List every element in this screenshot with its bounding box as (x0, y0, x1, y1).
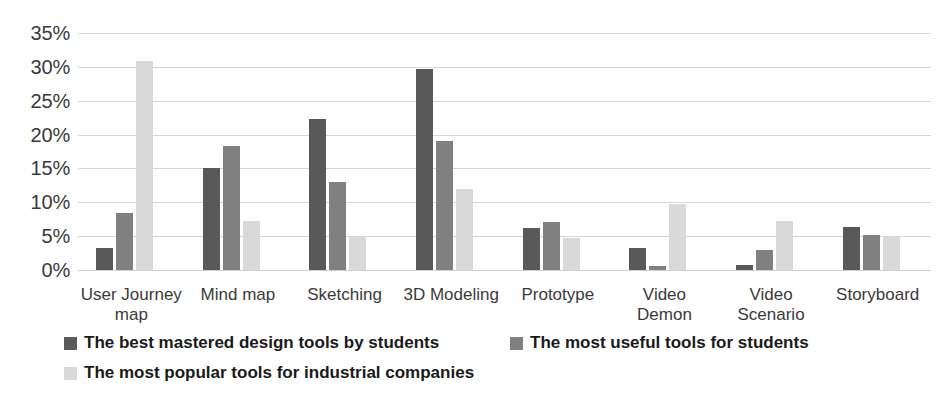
bar[interactable] (863, 235, 880, 270)
bar[interactable] (563, 238, 580, 271)
bar[interactable] (543, 222, 560, 270)
bar[interactable] (629, 248, 646, 270)
bar-group (185, 0, 292, 285)
legend-label: The most popular tools for industrial co… (84, 363, 474, 383)
bar[interactable] (349, 237, 366, 270)
bar[interactable] (243, 221, 260, 270)
x-axis-category-label: 3D Modeling (398, 285, 505, 333)
bar[interactable] (329, 182, 346, 270)
bar[interactable] (223, 146, 240, 270)
legend-swatch-icon (64, 367, 77, 380)
legend-item[interactable]: The most popular tools for industrial co… (64, 363, 474, 383)
y-axis-tick-label: 5% (41, 226, 70, 246)
bar-group-bars (611, 15, 718, 270)
bar-group (505, 0, 612, 285)
legend-label: The most useful tools for students (530, 333, 809, 353)
grouped-bar-chart: 0%5%10%15%20%25%30%35% User Journey mapM… (0, 0, 941, 400)
bar-group (78, 0, 185, 285)
bar-group (398, 0, 505, 285)
bar-group-bars (824, 15, 931, 270)
bar-group-bars (78, 15, 185, 270)
bar[interactable] (523, 228, 540, 270)
y-axis-tick-label: 15% (31, 158, 70, 178)
y-axis-tick-label: 20% (31, 125, 70, 145)
x-axis-category-label: User Journey map (78, 285, 185, 333)
bar-group-bars (718, 15, 825, 270)
bar-group (824, 0, 931, 285)
y-axis-tick-label: 35% (31, 23, 70, 43)
x-axis-category-label: Video Scenario (718, 285, 825, 333)
legend-label: The best mastered design tools by studen… (84, 333, 439, 353)
plot-wrapper: 0%5%10%15%20%25%30%35% (0, 0, 941, 285)
x-axis-category-label: Prototype (505, 285, 612, 333)
y-axis-tick-label: 25% (31, 91, 70, 111)
bar[interactable] (436, 141, 453, 270)
bar-group-bars (291, 15, 398, 270)
bar[interactable] (456, 189, 473, 270)
chart-legend: The best mastered design tools by studen… (0, 331, 941, 395)
bar[interactable] (669, 204, 686, 270)
bar[interactable] (136, 61, 153, 270)
bar-group-bars (505, 15, 612, 270)
legend-swatch-icon (510, 337, 523, 350)
bar[interactable] (116, 213, 133, 270)
bar-group (291, 0, 398, 285)
bar[interactable] (203, 168, 220, 270)
bar-group (718, 0, 825, 285)
bar[interactable] (776, 221, 793, 270)
bar[interactable] (883, 236, 900, 270)
plot-area (78, 0, 931, 285)
bar[interactable] (843, 227, 860, 270)
legend-item[interactable]: The best mastered design tools by studen… (64, 333, 439, 353)
y-axis-tick-label: 30% (31, 57, 70, 77)
x-axis-category-label: Storyboard (824, 285, 931, 333)
bar[interactable] (756, 250, 773, 270)
bar-groups (78, 0, 931, 285)
y-axis-tick-label: 0% (41, 260, 70, 280)
legend-swatch-icon (64, 337, 77, 350)
x-axis-category-label: Mind map (185, 285, 292, 333)
bar-group (611, 0, 718, 285)
bar-group-bars (185, 15, 292, 270)
y-axis-tick-label: 10% (31, 192, 70, 212)
legend-item[interactable]: The most useful tools for students (510, 333, 809, 353)
bar[interactable] (649, 266, 666, 270)
bar[interactable] (309, 119, 326, 270)
x-axis-category-label: Video Demon (611, 285, 718, 333)
bar-group-bars (398, 15, 505, 270)
y-axis: 0%5%10%15%20%25%30%35% (0, 0, 78, 285)
bar[interactable] (736, 265, 753, 270)
x-axis-category-label: Sketching (291, 285, 398, 333)
bar[interactable] (416, 69, 433, 270)
bar[interactable] (96, 248, 113, 270)
x-axis: User Journey mapMind mapSketching3D Mode… (78, 285, 931, 333)
